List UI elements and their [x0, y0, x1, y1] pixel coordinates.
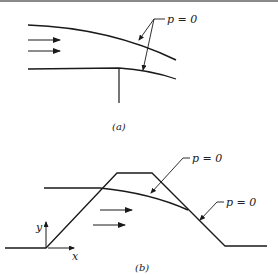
caption-b: (b)	[135, 262, 149, 273]
label-p-zero-a: p = 0	[167, 13, 197, 26]
obstacle-outline	[5, 173, 267, 248]
axis-label-x: x	[72, 250, 79, 263]
lower-streamline	[28, 68, 176, 79]
upper-free-streamline	[28, 25, 176, 60]
axis-label-y: y	[35, 221, 43, 234]
free-surface	[44, 188, 188, 210]
label-p-zero-top: p = 0	[192, 152, 222, 165]
leader-arrow-icon	[200, 202, 217, 220]
figure-b: y x p = 0 p = 0 (b)	[5, 152, 267, 273]
label-p-zero-right: p = 0	[226, 196, 256, 209]
diagram-canvas: p = 0 (a) y x p = 0 p = 0 (b)	[0, 0, 278, 275]
figure-a: p = 0 (a)	[28, 13, 197, 132]
caption-a: (a)	[112, 121, 126, 132]
